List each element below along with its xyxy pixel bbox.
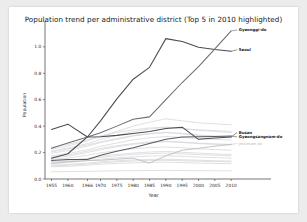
series-labels-group: SeoulGyeonggi-doBusanGyeongsangnam-doJeo… (238, 27, 283, 146)
series-label-jeollanam-do: Jeollanam-do (238, 142, 262, 146)
x-tick-label: 1955 (46, 183, 57, 188)
x-tick-label: 1995 (177, 183, 188, 188)
y-tick-label: 0.8 (34, 71, 41, 76)
series-leader-line (231, 50, 237, 52)
x-tick-label: 2000 (193, 183, 204, 188)
x-tick-label: 1970 (95, 183, 106, 188)
x-tick-label: 1966 (82, 183, 93, 188)
x-tick-label: 1975 (111, 183, 122, 188)
y-tick-label: 0.2 (34, 150, 41, 155)
series-leader-line (231, 30, 237, 31)
figure-panel: Population trend per administrative dist… (9, 7, 298, 213)
series-label-gyeonggi-do: Gyeonggi-do (239, 27, 267, 32)
x-tick-label: 1985 (144, 183, 155, 188)
y-tick-label: 0.4 (34, 124, 41, 129)
series-line-faded (52, 170, 232, 171)
x-tick-label: 2005 (209, 183, 220, 188)
x-tick-label: 1960 (62, 183, 73, 188)
y-tick-label: 0.0 (34, 177, 41, 182)
y-tick-label: 1.0 (34, 44, 41, 49)
x-tick-label: 1990 (160, 183, 171, 188)
series-label-seoul: Seoul (239, 47, 251, 52)
series-label-gyeongsangnam-do: Gyeongsangnam-do (239, 134, 283, 139)
x-tick-label: 1980 (128, 183, 139, 188)
y-tick-label: 0.6 (34, 97, 41, 102)
plot-area: SeoulGyeonggi-doBusanGyeongsangnam-doJeo… (9, 7, 298, 213)
chart-screenshot: Population trend per administrative dist… (0, 0, 307, 222)
x-tick-label: 2010 (226, 183, 237, 188)
series-leader-line (231, 144, 237, 145)
